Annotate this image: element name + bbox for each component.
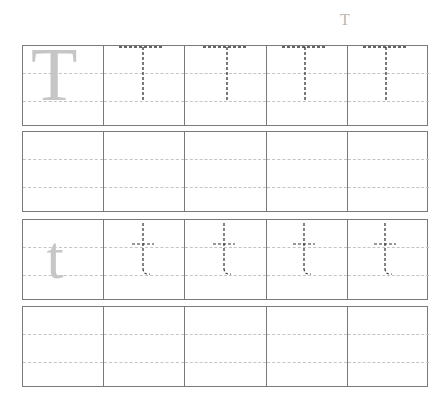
guide-line [348,159,429,160]
guide-line [23,362,103,363]
guide-line [185,334,265,335]
guide-line [267,362,347,363]
guide-line [267,187,347,188]
dashed-uppercase-t-icon [104,46,185,127]
trace-cell[interactable] [104,220,185,299]
blank-cell[interactable] [185,307,266,386]
guide-line [104,187,184,188]
model-letter: T [5,36,103,112]
guide-line [267,159,347,160]
practice-row-lowercase: t [22,219,428,300]
dashed-lowercase-t-icon [267,220,348,301]
blank-cell[interactable] [23,307,104,386]
dashed-lowercase-t-icon [185,220,266,301]
model-letter: t [7,226,103,288]
model-cell: t [23,220,104,299]
guide-line [104,362,184,363]
guide-line [267,334,347,335]
trace-cell[interactable] [185,220,266,299]
model-cell: T [23,46,104,125]
blank-cell[interactable] [185,132,266,211]
blank-cell[interactable] [104,132,185,211]
dashed-uppercase-t-icon [185,46,266,127]
trace-cell[interactable] [185,46,266,125]
title-letter: T [340,11,350,29]
trace-cell[interactable] [267,46,348,125]
guide-line [185,159,265,160]
blank-cell[interactable] [23,132,104,211]
practice-row-uppercase: T [22,45,428,126]
dashed-lowercase-t-icon [104,220,185,301]
blank-cell[interactable] [348,307,429,386]
practice-row-blank [22,306,428,387]
dashed-lowercase-t-icon [348,220,429,301]
blank-cell[interactable] [267,307,348,386]
guide-line [348,187,429,188]
blank-cell[interactable] [348,132,429,211]
guide-line [348,334,429,335]
dashed-uppercase-t-icon [267,46,348,127]
guide-line [185,362,265,363]
trace-cell[interactable] [348,46,429,125]
guide-line [348,362,429,363]
guide-line [23,334,103,335]
practice-row-blank [22,131,428,212]
trace-cell[interactable] [104,46,185,125]
trace-cell[interactable] [348,220,429,299]
blank-cell[interactable] [267,132,348,211]
dashed-uppercase-t-icon [348,46,429,127]
guide-line [104,159,184,160]
guide-line [23,159,103,160]
trace-cell[interactable] [267,220,348,299]
guide-line [185,187,265,188]
guide-line [104,334,184,335]
blank-cell[interactable] [104,307,185,386]
guide-line [23,187,103,188]
